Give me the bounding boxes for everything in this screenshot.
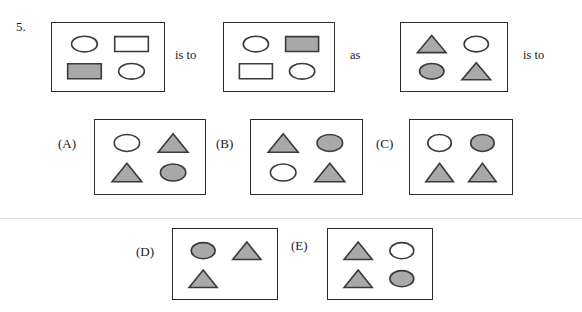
shape-triangle-shaded-top-left: [344, 242, 372, 260]
prompt-panel-3-shapes: [401, 23, 507, 91]
option-d-panel[interactable]: [172, 228, 278, 300]
option-e-shapes: [328, 229, 432, 299]
shape-triangle-shaded-top-left: [268, 134, 298, 153]
option-b-panel[interactable]: [250, 119, 363, 195]
shape-rectangle-shaded-top-right: [286, 37, 319, 52]
shape-triangle-shaded-bottom-right: [469, 163, 497, 182]
shape-triangle-shaded-top-right: [233, 242, 261, 260]
shape-triangle-shaded-bottom-left: [426, 163, 454, 182]
shape-circle-unshaded-bottom-right: [289, 63, 314, 79]
shape-circle-shaded-bottom-right: [160, 164, 185, 181]
shape-triangle-shaded-bottom-right: [315, 163, 345, 182]
option-e-label: (E): [291, 238, 308, 254]
option-c-shapes: [410, 120, 512, 194]
connector-as: as: [350, 48, 360, 63]
shape-rectangle-shaded-bottom-left: [68, 64, 102, 79]
option-d-label: (D): [136, 244, 154, 260]
question-sheet: 5. is to as is to (A) (B) (C) (D) (E): [0, 0, 582, 312]
shape-circle-unshaded-top-left: [72, 36, 98, 52]
shape-triangle-shaded-top-right: [158, 134, 188, 153]
shape-circle-unshaded-top-right: [464, 36, 488, 52]
option-b-shapes: [251, 120, 362, 194]
prompt-panel-1: [51, 22, 165, 92]
option-b-label: (B): [216, 136, 233, 152]
shape-circle-unshaded-top-left: [114, 134, 139, 151]
shape-circle-unshaded-bottom-left: [270, 164, 296, 181]
shape-circle-shaded-bottom-right: [390, 271, 414, 287]
shape-circle-shaded-top-left: [191, 243, 215, 259]
option-c-panel[interactable]: [409, 119, 513, 195]
shape-circle-unshaded-top-left: [428, 134, 451, 151]
prompt-panel-2-shapes: [224, 23, 334, 91]
shape-rectangle-unshaded-top-right: [115, 37, 149, 52]
question-number: 5.: [16, 19, 26, 35]
shape-triangle-shaded-top-left: [417, 36, 446, 53]
shape-circle-unshaded-bottom-right: [119, 63, 145, 79]
shape-circle-unshaded-top-right: [390, 243, 414, 259]
option-c-label: (C): [376, 136, 393, 152]
prompt-panel-1-shapes: [52, 23, 164, 91]
shape-triangle-shaded-bottom-right: [462, 63, 491, 80]
shape-circle-shaded-top-right: [471, 134, 494, 151]
option-a-label: (A): [58, 136, 76, 152]
shape-circle-unshaded-top-left: [243, 36, 268, 52]
prompt-panel-3: [400, 22, 508, 92]
connector-is-to-2: is to: [523, 48, 544, 63]
connector-is-to-1: is to: [175, 48, 196, 63]
shape-triangle-shaded-bottom-left: [112, 163, 142, 182]
section-divider: [0, 218, 582, 219]
shape-triangle-shaded-bottom-left: [344, 270, 372, 288]
shape-circle-shaded-top-right: [317, 134, 343, 151]
option-a-panel[interactable]: [94, 119, 206, 195]
prompt-panel-2: [223, 22, 335, 92]
shape-circle-shaded-bottom-left: [420, 63, 444, 79]
shape-rectangle-unshaded-bottom-left: [239, 64, 272, 79]
option-e-panel[interactable]: [327, 228, 433, 300]
shape-triangle-shaded-bottom-left: [189, 270, 217, 288]
option-d-shapes: [173, 229, 277, 299]
option-a-shapes: [95, 120, 205, 194]
